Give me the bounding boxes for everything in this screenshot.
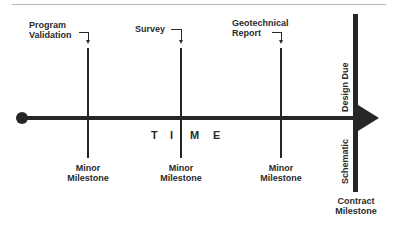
label-line: Milestone	[156, 173, 206, 183]
label-line: Milestone	[256, 173, 306, 183]
callout-line: Program	[29, 20, 72, 30]
time-letter-t: T	[151, 129, 158, 141]
label-line: Minor	[63, 163, 113, 173]
contract-milestone-label: Contract Milestone	[326, 196, 386, 216]
minor-milestone-line-1	[87, 48, 89, 158]
time-letter-e: E	[213, 129, 220, 141]
contract-milestone-bar	[353, 14, 358, 192]
minor-milestone-line-3	[280, 48, 282, 158]
minor-milestone-label-2: Minor Milestone	[156, 163, 206, 183]
label-line: Milestone	[63, 173, 113, 183]
minor-milestone-label-1: Minor Milestone	[63, 163, 113, 183]
minor-milestone-label-3: Minor Milestone	[256, 163, 306, 183]
timeline-arrow-icon	[358, 105, 379, 131]
callout-line: Survey	[135, 24, 165, 34]
callout-arrow-icon	[179, 40, 183, 44]
design-due-label: Design Due	[340, 62, 350, 112]
callout-arrow-icon	[279, 40, 283, 44]
label-line: Minor	[156, 163, 206, 173]
time-letter-i: I	[170, 129, 173, 141]
callout-program-validation: Program Validation	[29, 20, 72, 40]
callout-line: Geotechnical	[232, 18, 289, 28]
callout-line: Validation	[29, 30, 72, 40]
label-line: Contract	[326, 196, 386, 206]
top-divider	[12, 4, 386, 5]
schematic-label: Schematic	[340, 139, 350, 184]
label-line: Minor	[256, 163, 306, 173]
time-letter-m: M	[190, 129, 199, 141]
label-line: Milestone	[326, 206, 386, 216]
callout-arrow-icon	[86, 40, 90, 44]
callout-survey: Survey	[135, 24, 165, 34]
minor-milestone-line-2	[180, 48, 182, 158]
timeline-axis	[22, 116, 362, 120]
